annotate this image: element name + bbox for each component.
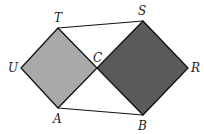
segment-AB [58,108,143,115]
label-A: A [52,112,62,126]
label-C: C [93,51,102,65]
left-square [21,28,97,108]
label-B: B [137,119,147,133]
geometry-diagram: T S U C R A B [0,0,204,134]
label-T: T [54,11,63,25]
right-square [97,21,188,115]
label-S: S [138,4,146,18]
label-U: U [8,61,19,75]
segment-TS [58,21,143,28]
label-R: R [190,61,200,75]
